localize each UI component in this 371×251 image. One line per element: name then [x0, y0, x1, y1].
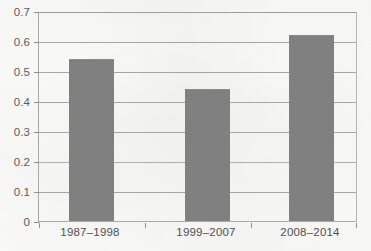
x-axis-tick-label: 1987–1998 — [60, 226, 119, 238]
bar-chart: 0.7 0.6 0.5 0.4 0.3 0.2 0.1 0 — [0, 0, 371, 251]
y-axis-tick-label: 0.7 — [14, 6, 30, 18]
bar-2008-2014[interactable] — [289, 35, 334, 221]
x-axis-labels: 1987–1998 1999–2007 2008–2014 — [0, 226, 371, 248]
y-axis-tick-label: 0.4 — [14, 96, 30, 108]
plot-area — [38, 12, 357, 222]
y-axis-tick-label: 0.5 — [14, 66, 30, 78]
bar-series — [39, 13, 356, 221]
y-axis-tick-label: 0.3 — [14, 126, 30, 138]
bar-1987-1998[interactable] — [69, 59, 114, 221]
y-axis-tick-label: 0.2 — [14, 156, 30, 168]
y-axis-labels: 0.7 0.6 0.5 0.4 0.3 0.2 0.1 0 — [0, 0, 34, 251]
y-axis-tick-label: 0.1 — [14, 186, 30, 198]
bar-1999-2007[interactable] — [185, 89, 230, 221]
x-axis-tick-label: 1999–2007 — [176, 226, 235, 238]
x-axis-tick-label: 2008–2014 — [280, 226, 339, 238]
y-axis-tick-label: 0.6 — [14, 36, 30, 48]
